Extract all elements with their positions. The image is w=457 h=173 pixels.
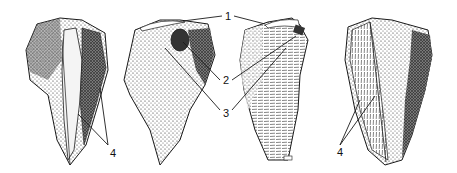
figure: 1 2 3 4 4 [0,0,457,173]
tool-view-right-dorsal [345,18,432,165]
label-2: 2 [223,74,229,86]
label-4-left: 4 [110,147,116,159]
label-4-right: 4 [337,146,343,158]
label-3: 3 [223,107,229,119]
tool-drawings: 1 2 3 4 4 [0,0,457,173]
label-1: 1 [225,10,231,22]
tool-view-center-left [124,20,215,165]
tool-view-left-dorsal [26,18,108,165]
